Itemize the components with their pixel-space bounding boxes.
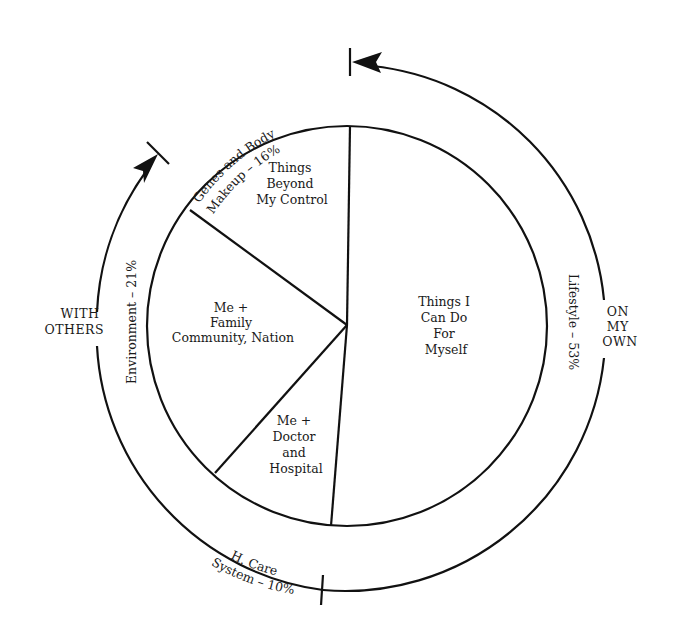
bottom-tick: [321, 575, 323, 605]
divider-lower-left: [215, 325, 347, 473]
lifestyle-outer-label: Lifestyle – 53%: [566, 274, 581, 370]
environment-outer-label: Environment – 21%: [124, 260, 139, 384]
divider-bottom: [331, 325, 347, 526]
divider-top: [347, 126, 350, 325]
health-factors-pie-diagram: Things I Can Do For Myself Things Beyond…: [0, 0, 673, 644]
lifestyle-inner-label: Things I Can Do For Myself: [418, 294, 474, 357]
on-my-own-label: ON MY OWN: [602, 304, 638, 349]
on-my-own-arc-lower: [323, 358, 604, 591]
genes-inner-label: Things Beyond My Control: [256, 160, 328, 207]
environment-inner-label: Me + Family Community, Nation: [172, 300, 294, 345]
hcare-inner-label: Me + Doctor and Hospital: [269, 413, 322, 476]
top-arrowhead-icon: [352, 52, 382, 73]
upper-left-arrowhead-icon: [133, 154, 158, 183]
with-others-label: WITH OTHERS: [44, 306, 104, 337]
with-others-arc-upper: [97, 170, 147, 312]
